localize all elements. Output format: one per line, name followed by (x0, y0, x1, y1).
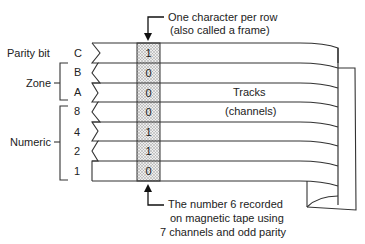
arrow-up-icon (144, 184, 152, 192)
bottom-caption-line3: 7 channels and odd parity (160, 226, 286, 239)
top-arrow (148, 17, 164, 35)
tape-left-edge (92, 43, 100, 181)
channel-name: 1 (74, 165, 80, 177)
magnetic-tape-diagram: One character per row (also called a fra… (0, 0, 365, 244)
arrow-down-icon (144, 33, 152, 41)
bit-value: 1 (137, 47, 160, 59)
tape-curl (307, 68, 356, 210)
bottom-caption-line2: on magnetic tape using (170, 212, 284, 225)
track-lines (92, 43, 338, 205)
bit-value: 1 (137, 145, 160, 157)
channels-label: (channels) (225, 105, 276, 118)
bit-value: 0 (137, 87, 160, 99)
bit-value: 0 (137, 165, 160, 177)
bit-value: 1 (137, 126, 160, 138)
channel-name: C (74, 47, 82, 59)
top-caption-line1: One character per row (168, 11, 277, 24)
group-brackets (54, 63, 68, 180)
bottom-arrow (148, 190, 164, 205)
channel-name: B (74, 66, 81, 78)
numeric-label: Numeric (10, 136, 51, 148)
channel-name: 2 (74, 145, 80, 157)
bit-value: 0 (137, 106, 160, 118)
parity-bit-label: Parity bit (7, 47, 50, 59)
bit-value: 0 (137, 67, 160, 79)
zone-label: Zone (26, 77, 51, 89)
bottom-caption-line1: The number 6 recorded (168, 198, 283, 211)
channel-name: 8 (74, 105, 80, 117)
top-caption-line2: (also called a frame) (170, 24, 270, 37)
channel-name: A (74, 86, 81, 98)
tracks-label: Tracks (233, 86, 266, 99)
channel-name: 4 (74, 126, 80, 138)
